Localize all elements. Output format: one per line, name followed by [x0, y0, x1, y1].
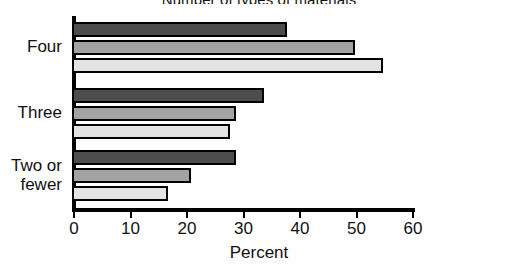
bar-four-series-1: [72, 22, 287, 37]
x-tick-label-10: 10: [121, 219, 140, 239]
bar-three-series-2: [72, 106, 236, 121]
bar-four-series-3: [72, 58, 383, 73]
category-label-2: Two or fewer: [0, 156, 62, 194]
bar-two-or-fewer-series-3: [72, 186, 168, 201]
x-tick-label-40: 40: [291, 219, 310, 239]
category-label-1: Three: [0, 103, 62, 122]
x-tick-label-60: 60: [404, 219, 423, 239]
bar-two-or-fewer-series-1: [72, 150, 236, 165]
x-tick-0: [73, 212, 75, 218]
bar-two-or-fewer-series-2: [72, 168, 191, 183]
x-tick-label-0: 0: [69, 219, 78, 239]
x-tick-60: [412, 212, 414, 218]
x-tick-label-20: 20: [178, 219, 197, 239]
x-tick-20: [186, 212, 188, 218]
x-tick-label-30: 30: [234, 219, 253, 239]
chart-title: Number of types of materials: [0, 0, 518, 4]
bar-four-series-2: [72, 40, 355, 55]
category-label-0: Four: [0, 37, 62, 56]
x-tick-10: [130, 212, 132, 218]
bar-three-series-1: [72, 88, 264, 103]
x-tick-50: [356, 212, 358, 218]
x-tick-label-50: 50: [347, 219, 366, 239]
x-tick-40: [299, 212, 301, 218]
x-tick-30: [243, 212, 245, 218]
bar-chart: Number of types of materials 01020304050…: [0, 0, 518, 267]
x-axis-label: Percent: [0, 243, 518, 263]
bar-three-series-3: [72, 124, 230, 139]
